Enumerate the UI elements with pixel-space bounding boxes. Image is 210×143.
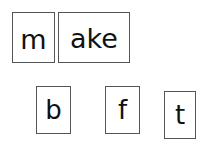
letter-f: f xyxy=(118,97,127,123)
letter-tile-f[interactable]: f xyxy=(105,86,140,134)
onset-tile[interactable]: m xyxy=(12,12,55,63)
letter-t: t xyxy=(175,102,185,128)
letter-tile-b[interactable]: b xyxy=(36,86,71,134)
letter-b: b xyxy=(45,97,62,123)
letter-tile-t[interactable]: t xyxy=(164,91,196,139)
rime-letters: ake xyxy=(70,25,118,52)
onset-letter: m xyxy=(20,26,46,53)
rime-tile[interactable]: ake xyxy=(58,12,130,63)
